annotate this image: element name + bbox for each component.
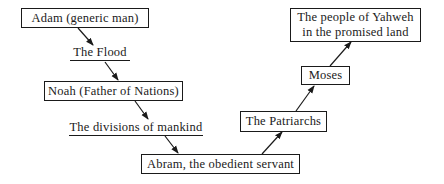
node-moses: Moses xyxy=(301,66,350,85)
arrow-divisions-to-abram xyxy=(165,136,178,153)
node-noah: Noah (Father of Nations) xyxy=(44,81,183,101)
node-patriarchs: The Patriarchs xyxy=(240,111,327,132)
arrow-moses-to-yahweh xyxy=(330,42,351,66)
arrow-abram-to-patriarchs xyxy=(262,132,282,154)
node-divisions: The divisions of mankind xyxy=(69,120,203,136)
node-noah-label: Noah (Father of Nations) xyxy=(48,84,179,99)
node-moses-label: Moses xyxy=(309,68,343,83)
node-divisions-label: The divisions of mankind xyxy=(70,120,203,134)
arrow-patriarchs-to-moses xyxy=(296,86,314,111)
node-yahweh-label-line2: in the promised land xyxy=(302,25,408,40)
node-flood: The Flood xyxy=(70,45,130,61)
node-abram-label: Abram, the obedient servant xyxy=(147,157,294,172)
arrow-adam-to-flood xyxy=(78,28,93,45)
arrow-flood-to-noah xyxy=(105,62,118,80)
node-patriarchs-label: The Patriarchs xyxy=(246,114,321,129)
arrow-noah-to-divisions xyxy=(135,101,148,119)
node-yahweh: The people of Yahweh in the promised lan… xyxy=(290,8,421,42)
node-adam-label: Adam (generic man) xyxy=(31,11,138,26)
node-flood-label: The Flood xyxy=(73,45,127,59)
node-adam: Adam (generic man) xyxy=(21,8,149,28)
node-yahweh-label-line1: The people of Yahweh xyxy=(297,10,413,25)
node-abram: Abram, the obedient servant xyxy=(141,154,300,174)
